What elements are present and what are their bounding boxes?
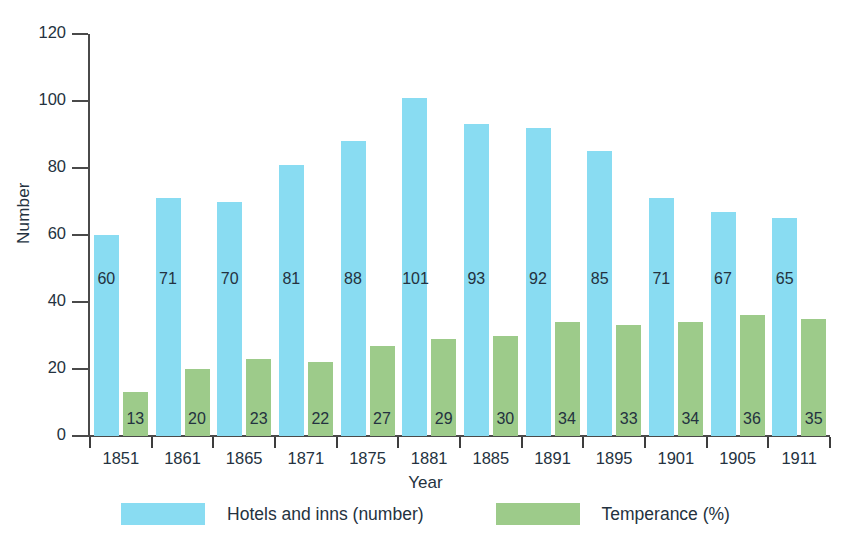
bar-value-label: 71 bbox=[649, 270, 674, 288]
bar-value-label: 34 bbox=[678, 410, 703, 428]
y-axis-tick bbox=[72, 435, 88, 437]
x-axis-tick bbox=[212, 437, 214, 448]
x-axis-tick-label: 1911 bbox=[769, 449, 829, 468]
x-axis-tick bbox=[89, 437, 91, 448]
bar-group: 8533 bbox=[587, 34, 641, 436]
bar-value-label: 70 bbox=[217, 270, 242, 288]
bar-hotels-and-inns[interactable]: 81 bbox=[279, 165, 304, 436]
x-axis-tick bbox=[397, 437, 399, 448]
bar-value-label: 92 bbox=[526, 270, 551, 288]
bar-group: 7023 bbox=[217, 34, 271, 436]
x-axis-tick bbox=[274, 437, 276, 448]
bar-value-label: 36 bbox=[740, 410, 765, 428]
x-axis-tick bbox=[459, 437, 461, 448]
bar-value-label: 22 bbox=[308, 410, 333, 428]
legend-item[interactable]: Temperance (%) bbox=[496, 503, 730, 525]
bar-hotels-and-inns[interactable]: 67 bbox=[711, 212, 736, 436]
x-axis-tick bbox=[829, 437, 831, 448]
bar-hotels-and-inns[interactable]: 93 bbox=[464, 124, 489, 436]
x-axis-tick-label: 1865 bbox=[214, 449, 274, 468]
bar-value-label: 33 bbox=[616, 410, 641, 428]
legend-label: Temperance (%) bbox=[602, 504, 730, 525]
x-axis-tick-label: 1901 bbox=[646, 449, 706, 468]
x-axis-tick-label: 1881 bbox=[399, 449, 459, 468]
x-axis-tick-label: 1895 bbox=[584, 449, 644, 468]
bar-value-label: 93 bbox=[464, 270, 489, 288]
bar-temperance[interactable]: 27 bbox=[370, 346, 395, 436]
bar-value-label: 81 bbox=[279, 270, 304, 288]
x-axis-tick bbox=[151, 437, 153, 448]
bar-value-label: 67 bbox=[711, 270, 736, 288]
bar-value-label: 60 bbox=[94, 270, 119, 288]
bar-temperance[interactable]: 30 bbox=[493, 336, 518, 437]
bar-temperance[interactable]: 13 bbox=[123, 392, 148, 436]
y-axis-tick bbox=[72, 100, 88, 102]
bar-group: 8827 bbox=[341, 34, 395, 436]
x-axis-tick-label: 1885 bbox=[461, 449, 521, 468]
x-axis-tick bbox=[582, 437, 584, 448]
chart-legend: Hotels and inns (number)Temperance (%) bbox=[0, 503, 851, 525]
y-axis-tick-label: 0 bbox=[20, 425, 66, 444]
bar-hotels-and-inns[interactable]: 88 bbox=[341, 141, 366, 436]
bar-temperance[interactable]: 29 bbox=[431, 339, 456, 436]
bar-group: 9234 bbox=[526, 34, 580, 436]
y-axis-tick-label: 120 bbox=[20, 23, 66, 42]
bar-group: 9330 bbox=[464, 34, 518, 436]
bar-temperance[interactable]: 36 bbox=[740, 315, 765, 436]
bar-group: 6736 bbox=[711, 34, 765, 436]
y-axis-tick bbox=[72, 234, 88, 236]
bar-value-label: 27 bbox=[370, 410, 395, 428]
bar-group: 10129 bbox=[402, 34, 456, 436]
legend-swatch bbox=[496, 503, 580, 525]
bar-value-label: 88 bbox=[341, 270, 366, 288]
bar-value-label: 101 bbox=[402, 270, 427, 288]
x-axis-tick-label: 1871 bbox=[276, 449, 336, 468]
bar-temperance[interactable]: 20 bbox=[185, 369, 210, 436]
bar-hotels-and-inns[interactable]: 71 bbox=[156, 198, 181, 436]
bar-hotels-and-inns[interactable]: 70 bbox=[217, 202, 242, 437]
bar-group: 6013 bbox=[94, 34, 148, 436]
y-axis-tick bbox=[72, 368, 88, 370]
x-axis-tick-label: 1891 bbox=[523, 449, 583, 468]
bar-temperance[interactable]: 33 bbox=[616, 325, 641, 436]
bar-group: 8122 bbox=[279, 34, 333, 436]
x-axis-tick-label: 1851 bbox=[91, 449, 151, 468]
bar-hotels-and-inns[interactable]: 85 bbox=[587, 151, 612, 436]
bar-value-label: 35 bbox=[801, 410, 826, 428]
bar-value-label: 23 bbox=[246, 410, 271, 428]
legend-swatch bbox=[121, 503, 205, 525]
bar-group: 6535 bbox=[772, 34, 826, 436]
bar-value-label: 30 bbox=[493, 410, 518, 428]
bar-value-label: 71 bbox=[156, 270, 181, 288]
y-axis-tick-label: 100 bbox=[20, 90, 66, 109]
x-axis-tick bbox=[521, 437, 523, 448]
bar-value-label: 85 bbox=[587, 270, 612, 288]
y-axis-tick-label: 40 bbox=[20, 291, 66, 310]
bar-value-label: 29 bbox=[431, 410, 456, 428]
bar-hotels-and-inns[interactable]: 60 bbox=[94, 235, 119, 436]
bar-hotels-and-inns[interactable]: 101 bbox=[402, 98, 427, 436]
y-axis-tick-label: 80 bbox=[20, 157, 66, 176]
legend-label: Hotels and inns (number) bbox=[227, 504, 423, 525]
y-axis-tick bbox=[72, 33, 88, 35]
legend-item[interactable]: Hotels and inns (number) bbox=[121, 503, 423, 525]
bar-value-label: 34 bbox=[555, 410, 580, 428]
bar-hotels-and-inns[interactable]: 71 bbox=[649, 198, 674, 436]
x-axis-tick bbox=[336, 437, 338, 448]
bar-temperance[interactable]: 35 bbox=[801, 319, 826, 436]
bar-temperance[interactable]: 34 bbox=[555, 322, 580, 436]
bar-value-label: 20 bbox=[185, 410, 210, 428]
x-axis-tick bbox=[706, 437, 708, 448]
bar-hotels-and-inns[interactable]: 92 bbox=[526, 128, 551, 436]
x-axis-tick bbox=[644, 437, 646, 448]
x-axis-tick-label: 1861 bbox=[153, 449, 213, 468]
bar-hotels-and-inns[interactable]: 65 bbox=[772, 218, 797, 436]
bar-temperance[interactable]: 34 bbox=[678, 322, 703, 436]
y-axis-tick-label: 20 bbox=[20, 358, 66, 377]
plot-area: 6013712070238122882710129933092348533713… bbox=[90, 34, 830, 436]
bar-temperance[interactable]: 23 bbox=[246, 359, 271, 436]
bar-value-label: 13 bbox=[123, 410, 148, 428]
x-axis-tick bbox=[767, 437, 769, 448]
y-axis-tick-label: 60 bbox=[20, 224, 66, 243]
bar-temperance[interactable]: 22 bbox=[308, 362, 333, 436]
